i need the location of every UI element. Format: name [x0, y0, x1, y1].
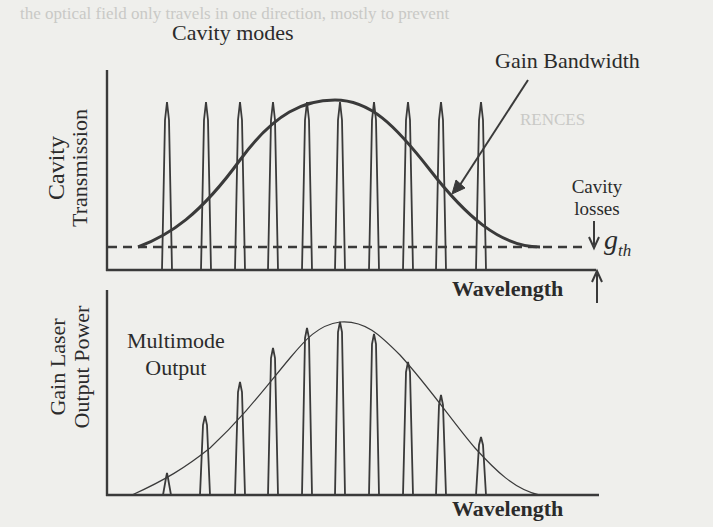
threshold-gain-label: gth — [604, 224, 631, 261]
laser-modes-diagram — [0, 0, 713, 527]
cavity-losses-line1: Cavity — [565, 176, 629, 198]
multimode-output-line2: Output — [127, 354, 225, 381]
bottom-xlabel-wavelength: Wavelength — [452, 496, 563, 522]
multimode-output-label: Multimode Output — [127, 327, 225, 381]
multimode-output-line1: Multimode — [127, 327, 225, 354]
bottom-ylabel: Gain Laser Output Power — [46, 272, 94, 462]
threshold-symbol: g — [604, 224, 618, 255]
gain-bandwidth-arrowhead — [452, 180, 465, 194]
bottom-panel-axes — [106, 290, 599, 496]
cavity-modes — [162, 102, 486, 270]
top-panel-axes — [106, 70, 596, 271]
bottom-ylabel-line2: Output Power — [70, 272, 94, 462]
bottom-ylabel-line1: Gain Laser — [46, 272, 70, 462]
gain-bandwidth-label: Gain Bandwidth — [495, 48, 640, 74]
gain-bandwidth-pointer — [458, 80, 528, 188]
top-ylabel: Cavity Transmission — [44, 78, 92, 258]
top-ylabel-line2: Transmission — [68, 78, 92, 258]
cavity-modes-label: Cavity modes — [172, 20, 294, 46]
threshold-subscript: th — [618, 241, 631, 260]
top-xlabel-wavelength: Wavelength — [452, 276, 563, 302]
cavity-losses-label: Cavity losses — [565, 176, 629, 220]
figure-canvas: the optical field only travels in one di… — [0, 0, 713, 527]
cavity-losses-line2: losses — [565, 198, 629, 220]
top-ylabel-line1: Cavity — [44, 78, 68, 258]
